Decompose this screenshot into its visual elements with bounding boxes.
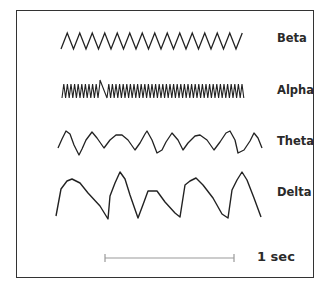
theta-wave [58, 131, 262, 155]
scale-bar [105, 254, 234, 262]
theta-label: Theta [277, 136, 314, 148]
delta-wave [56, 172, 261, 219]
delta-label: Delta [277, 187, 312, 199]
beta-label: Beta [277, 33, 307, 45]
alpha-wave [62, 80, 244, 98]
scale-bar-label: 1 sec [257, 250, 295, 263]
alpha-label: Alpha [277, 85, 314, 97]
beta-wave [61, 33, 242, 49]
